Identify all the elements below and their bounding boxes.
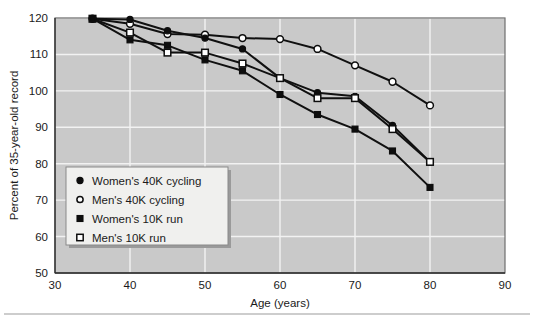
legend-label-womens-40k-cycling: Women's 40K cycling bbox=[92, 175, 201, 187]
x-tick-label-70: 70 bbox=[349, 279, 362, 291]
x-axis-tick-labels: 30 40 50 60 70 80 90 bbox=[49, 279, 512, 291]
x-tick-label-90: 90 bbox=[499, 279, 512, 291]
legend-item-womens-10k-run[interactable]: Women's 10K run bbox=[77, 213, 183, 225]
y-tick-label-110: 110 bbox=[30, 48, 48, 60]
y-tick-label-70: 70 bbox=[35, 194, 48, 206]
x-tick-label-30: 30 bbox=[49, 279, 62, 291]
y-axis-tick-labels: 50 60 70 80 90 100 110 120 bbox=[29, 12, 48, 279]
y-tick-label-120: 120 bbox=[29, 12, 48, 24]
legend-label-womens-10k-run: Women's 10K run bbox=[92, 213, 183, 225]
open-square-icon bbox=[77, 234, 83, 240]
chart-legend: Women's 40K cycling Men's 40K cycling Wo… bbox=[66, 167, 231, 248]
legend-item-mens-40k-cycling[interactable]: Men's 40K cycling bbox=[77, 194, 184, 206]
x-axis-title: Age (years) bbox=[250, 297, 310, 309]
open-circle-icon bbox=[77, 196, 83, 202]
performance-decline-line-chart: Women's 40K cycling Men's 40K cycling Wo… bbox=[0, 0, 534, 321]
y-tick-label-50: 50 bbox=[35, 267, 48, 279]
filled-circle-icon bbox=[77, 177, 83, 183]
x-tick-label-40: 40 bbox=[124, 279, 137, 291]
y-tick-label-60: 60 bbox=[35, 231, 48, 243]
legend-item-womens-40k-cycling[interactable]: Women's 40K cycling bbox=[77, 175, 201, 187]
chart-figure: Women's 40K cycling Men's 40K cycling Wo… bbox=[0, 0, 534, 321]
legend-label-mens-40k-cycling: Men's 40K cycling bbox=[92, 194, 184, 206]
x-tick-label-50: 50 bbox=[199, 279, 212, 291]
x-tick-label-80: 80 bbox=[424, 279, 437, 291]
y-tick-label-100: 100 bbox=[29, 85, 48, 97]
y-tick-label-80: 80 bbox=[35, 158, 48, 170]
legend-label-mens-10k-run: Men's 10K run bbox=[92, 232, 166, 244]
x-tick-label-60: 60 bbox=[274, 279, 287, 291]
y-axis-title: Percent of 35-year-old record bbox=[8, 71, 20, 221]
filled-square-icon bbox=[77, 216, 83, 222]
y-tick-label-90: 90 bbox=[35, 121, 48, 133]
